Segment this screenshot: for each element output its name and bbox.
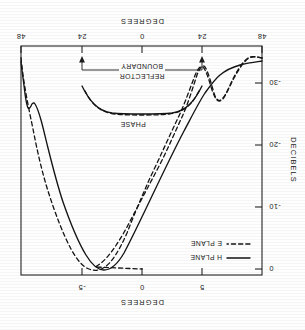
angle-tick-label-3: 24	[78, 32, 87, 41]
phase-tick-label-2: -5	[78, 283, 85, 292]
angle-axis-ticks	[21, 46, 262, 53]
reflector-boundary-annotation: REFLECTOR BOUNDARY	[79, 56, 205, 80]
plot-svg: 48 24 0 24 48 DEGREES 0 -10 -20 -30 DECI…	[0, 0, 305, 330]
phase-annotation-label: PHASE	[120, 121, 145, 128]
reflector-boundary-label-line2: BOUNDARY	[121, 63, 163, 70]
phase-axis-title: DEGREES	[120, 298, 164, 307]
angle-axis-title: DEGREES	[120, 17, 164, 26]
amplitude-tick-label-1: -10	[269, 202, 281, 211]
amplitude-tick-label-2: -20	[269, 140, 281, 149]
curve-e-plane-amplitude	[95, 57, 262, 269]
amplitude-axis-ticks	[255, 83, 262, 269]
amplitude-tick-label-0: 0	[269, 264, 273, 273]
figure-page: 48 24 0 24 48 DEGREES 0 -10 -20 -30 DECI…	[0, 0, 305, 330]
curve-phase-e-plane	[85, 91, 199, 115]
curve-e-plane-amplitude-left	[21, 56, 262, 270]
phase-tick-label-0: 5	[200, 283, 204, 292]
reflector-boundary-arrow-left	[199, 56, 205, 63]
legend-label-e-plane: E PLANE	[190, 240, 222, 247]
phase-axis-tick-labels: 5 0 -5	[78, 283, 204, 292]
angle-axis-tick-labels: 48 24 0 24 48	[17, 32, 267, 41]
reflector-boundary-label-line1: REFLECTOR	[119, 73, 164, 80]
amplitude-axis-tick-labels: 0 -10 -20 -30	[269, 78, 281, 273]
curve-h-plane-amplitude	[21, 61, 262, 270]
angle-tick-label-2: 0	[140, 32, 144, 41]
legend-label-h-plane: H PLANE	[190, 254, 222, 261]
plot-frame	[21, 46, 262, 275]
angle-tick-label-1: 24	[198, 32, 207, 41]
amplitude-tick-label-3: -30	[269, 78, 281, 87]
reflector-boundary-arrow-right	[79, 56, 85, 63]
angle-tick-label-4: 48	[17, 32, 26, 41]
amplitude-axis-title: DECIBELS	[289, 137, 298, 182]
phase-tick-label-1: 0	[140, 283, 144, 292]
legend: H PLANE E PLANE	[190, 240, 250, 261]
angle-tick-label-0: 48	[258, 32, 267, 41]
radiation-pattern-figure: 48 24 0 24 48 DEGREES 0 -10 -20 -30 DECI…	[0, 0, 305, 330]
